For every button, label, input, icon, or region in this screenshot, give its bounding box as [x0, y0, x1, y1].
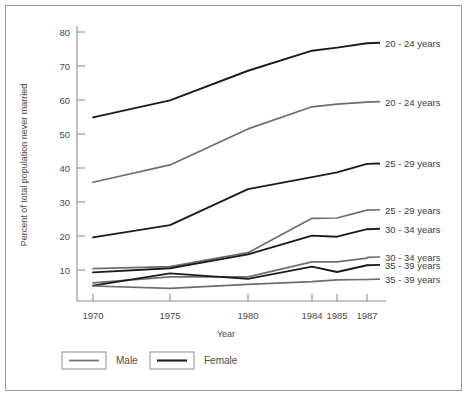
y-tick-label: 30 [59, 197, 70, 208]
series-line [93, 229, 367, 272]
series-label: 35 - 39 years [385, 274, 441, 285]
series-label: 30 - 34 years [385, 224, 441, 235]
series-label: 20 - 24 years [385, 97, 441, 108]
y-axis-ticks: 1020304050607080 [59, 27, 85, 276]
series-label: 20 - 24 years [385, 38, 441, 49]
x-tick-label: 1984 [301, 310, 322, 321]
data-series-group [93, 43, 367, 288]
chart-canvas: 1020304050607080 19701975198019841985198… [0, 0, 469, 398]
x-tick-label: 1985 [326, 310, 347, 321]
y-tick-label: 60 [59, 95, 70, 106]
y-tick-label: 70 [59, 61, 70, 72]
legend-label-male: Male [116, 355, 138, 366]
series-label: 25 - 29 years [385, 158, 441, 169]
x-tick-label: 1975 [159, 310, 180, 321]
series-line [93, 164, 367, 237]
y-tick-label: 20 [59, 231, 70, 242]
series-label: 35 - 39 years [385, 260, 441, 271]
series-line [93, 280, 367, 289]
x-axis-title: Year [217, 329, 235, 339]
y-tick-label: 10 [59, 265, 70, 276]
series-line [93, 102, 367, 182]
series-label: 25 - 29 years [385, 205, 441, 216]
y-tick-label: 80 [59, 27, 70, 38]
series-label-group: 20 - 24 years20 - 24 years25 - 29 years2… [367, 38, 441, 285]
series-line [93, 210, 367, 268]
x-tick-label: 1970 [82, 310, 103, 321]
chart-page: 1020304050607080 19701975198019841985198… [0, 0, 469, 398]
legend: Male Female [62, 352, 238, 369]
series-line [93, 43, 367, 117]
y-axis-title: Percent of total population never marrie… [19, 84, 29, 247]
x-tick-label: 1987 [356, 310, 377, 321]
x-axis-ticks: 197019751980198419851987 [82, 294, 377, 321]
x-tick-label: 1980 [237, 310, 258, 321]
y-tick-label: 40 [59, 163, 70, 174]
legend-label-female: Female [204, 355, 238, 366]
line-chart-svg: 1020304050607080 19701975198019841985198… [0, 0, 469, 398]
y-tick-label: 50 [59, 129, 70, 140]
